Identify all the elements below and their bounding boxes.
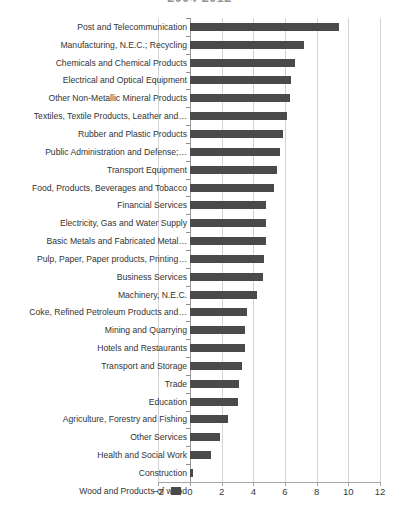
bar xyxy=(190,291,257,299)
category-label: Textiles, Textile Products, Leather and… xyxy=(34,111,187,121)
bar xyxy=(190,255,264,263)
category-label: Public Administration and Defense;… xyxy=(45,147,187,157)
category-tick xyxy=(186,18,190,19)
category-label: Financial Services xyxy=(117,200,187,210)
category-label: Hotels and Restaurants xyxy=(97,343,187,353)
chart-row: Rubber and Plastic Products xyxy=(0,125,399,143)
category-tick xyxy=(186,375,190,376)
category-tick xyxy=(186,357,190,358)
category-tick xyxy=(186,143,190,144)
bar-chart: 2004-2012 Post and TelecommunicationManu… xyxy=(0,0,399,512)
category-tick xyxy=(186,54,190,55)
chart-row: Coke, Refined Petroleum Products and… xyxy=(0,304,399,322)
category-tick xyxy=(186,411,190,412)
category-label: Other Non-Metallic Mineral Products xyxy=(48,93,187,103)
chart-row: Other Non-Metallic Mineral Products xyxy=(0,89,399,107)
category-label: Agriculture, Forestry and Fishing xyxy=(63,414,187,424)
chart-row: Other Services xyxy=(0,428,399,446)
bar xyxy=(190,451,211,459)
category-label: Health and Social Work xyxy=(97,450,187,460)
bar xyxy=(190,94,290,102)
category-label: Transport Equipment xyxy=(107,165,187,175)
category-tick xyxy=(186,321,190,322)
category-label: Business Services xyxy=(117,272,187,282)
bar xyxy=(190,433,220,441)
chart-row: Hotels and Restaurants xyxy=(0,339,399,357)
category-label: Pulp, Paper, Paper products, Printing… xyxy=(37,254,187,264)
bar xyxy=(190,326,245,334)
chart-row: Transport Equipment xyxy=(0,161,399,179)
bar xyxy=(190,201,266,209)
category-label: Coke, Refined Petroleum Products and… xyxy=(29,307,187,317)
bar xyxy=(190,362,242,370)
x-axis-label-8: 8 xyxy=(314,486,319,497)
chart-row: Health and Social Work xyxy=(0,446,399,464)
chart-row: Construction xyxy=(0,464,399,482)
chart-row: Textiles, Textile Products, Leather and… xyxy=(0,107,399,125)
chart-row: Post and Telecommunication xyxy=(0,18,399,36)
bar xyxy=(190,273,263,281)
bar xyxy=(190,237,266,245)
category-tick xyxy=(186,286,190,287)
chart-row: Chemicals and Chemical Products xyxy=(0,54,399,72)
x-axis-label-0: 0 xyxy=(187,486,192,497)
category-label: Manufacturing, N.E.C.; Recycling xyxy=(60,40,187,50)
x-axis-label--2: −2 xyxy=(153,486,164,497)
category-label: Other Services xyxy=(130,432,187,442)
x-axis-label-12: 12 xyxy=(375,486,386,497)
chart-row: Business Services xyxy=(0,268,399,286)
category-tick xyxy=(186,107,190,108)
bar xyxy=(190,166,277,174)
chart-row: Electricity, Gas and Water Supply xyxy=(0,214,399,232)
chart-row: Education xyxy=(0,393,399,411)
chart-row: Food, Products, Beverages and Tobacco xyxy=(0,179,399,197)
category-label: Post and Telecommunication xyxy=(77,22,187,32)
category-label: Transport and Storage xyxy=(101,361,187,371)
category-label: Mining and Quarrying xyxy=(105,325,187,335)
chart-row: Agriculture, Forestry and Fishing xyxy=(0,411,399,429)
x-axis-label-4: 4 xyxy=(251,486,256,497)
category-label: Education xyxy=(149,397,187,407)
bar xyxy=(190,398,238,406)
category-label: Construction xyxy=(139,468,187,478)
category-tick xyxy=(186,125,190,126)
chart-row: Pulp, Paper, Paper products, Printing… xyxy=(0,250,399,268)
category-label: Electricity, Gas and Water Supply xyxy=(60,218,187,228)
category-label: Electrical and Optical Equipment xyxy=(63,75,187,85)
bar xyxy=(190,41,304,49)
category-label: Basic Metals and Fabricated Metal… xyxy=(47,236,187,246)
chart-row: Financial Services xyxy=(0,196,399,214)
category-label: Chemicals and Chemical Products xyxy=(56,58,187,68)
x-axis-label-6: 6 xyxy=(282,486,287,497)
chart-row: Public Administration and Defense;… xyxy=(0,143,399,161)
category-label: Food, Products, Beverages and Tobacco xyxy=(32,183,187,193)
category-tick xyxy=(186,36,190,37)
bar xyxy=(190,344,245,352)
chart-row: Electrical and Optical Equipment xyxy=(0,72,399,90)
category-label: Trade xyxy=(165,379,187,389)
category-tick xyxy=(186,446,190,447)
category-tick xyxy=(186,464,190,465)
x-axis-label-10: 10 xyxy=(343,486,354,497)
category-tick xyxy=(186,214,190,215)
bar xyxy=(190,148,280,156)
chart-row: Transport and Storage xyxy=(0,357,399,375)
chart-title: 2004-2012 xyxy=(0,0,399,5)
category-label: Rubber and Plastic Products xyxy=(78,129,187,139)
bar xyxy=(190,76,291,84)
category-tick xyxy=(186,304,190,305)
chart-row: Manufacturing, N.E.C.; Recycling xyxy=(0,36,399,54)
chart-row: Machinery, N.E.C. xyxy=(0,286,399,304)
x-axis-label-2: 2 xyxy=(219,486,224,497)
category-tick xyxy=(186,179,190,180)
bar xyxy=(190,184,274,192)
bar xyxy=(190,469,193,477)
chart-row: Trade xyxy=(0,375,399,393)
x-axis-line xyxy=(158,482,380,483)
chart-rows: Post and TelecommunicationManufacturing,… xyxy=(0,18,399,500)
category-tick xyxy=(186,89,190,90)
category-tick xyxy=(186,268,190,269)
bar xyxy=(190,112,287,120)
category-tick xyxy=(186,196,190,197)
category-label: Machinery, N.E.C. xyxy=(118,290,187,300)
